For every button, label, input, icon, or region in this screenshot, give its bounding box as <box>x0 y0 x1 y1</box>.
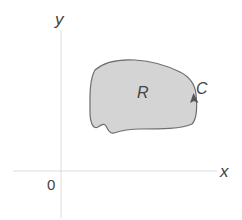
diagram-canvas: y x 0 R C <box>0 0 242 220</box>
curve-c-label: C <box>196 81 208 97</box>
origin-label: 0 <box>47 177 55 192</box>
diagram-svg <box>0 0 242 220</box>
region-r-label: R <box>137 85 149 101</box>
y-axis-label: y <box>55 11 64 28</box>
x-axis-label: x <box>220 163 229 180</box>
